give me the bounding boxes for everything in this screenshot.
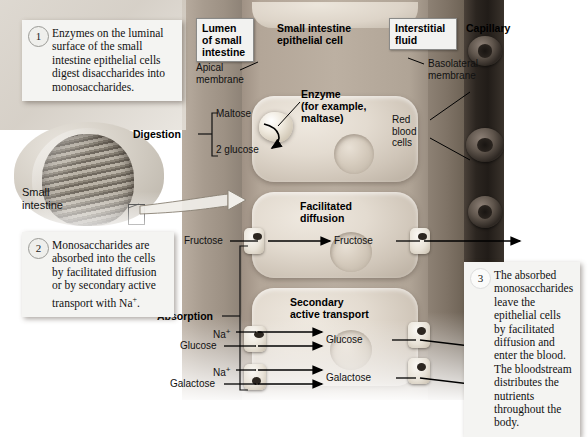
label-epithelial-line2: epithelial cell [277,34,351,46]
label-interstitial-line2: fluid [395,34,451,46]
label-fructose-cell: Fructose [334,235,373,247]
label-organ-line2: intestine [22,199,63,212]
label-na-text: Na [213,329,226,340]
step-2-text-part2: . [137,296,140,308]
apical-sglt-glucose [244,326,266,352]
label-digestion: Digestion [133,128,181,140]
label-facilitated-diffusion: Facilitated diffusion [300,200,352,224]
carrier-notch [417,363,426,371]
label-capillary: Capillary [466,22,510,34]
carrier-notch [254,331,264,338]
label-sodium-galactose: Na+ [213,364,230,379]
carrier-notch [253,233,262,240]
label-enzyme-line3: maltase) [301,112,366,124]
label-glucose-cell: Glucose [326,334,363,346]
step-2-callout: 2 Monosaccharides are absorbed into the … [22,232,174,317]
label-galactose-lumen: Galactose [170,378,215,390]
label-lumen: Lumen of small intestine [196,18,254,62]
step-2-text-part1: Monosaccharides are absorbed into the ce… [52,239,157,308]
label-fd-line1: Facilitated [300,200,352,212]
label-small-intestine: Small intestine [22,186,63,212]
label-galactose-cell: Galactose [326,372,371,384]
label-basolateral-membrane: Basolateral membrane [428,58,478,81]
label-interstitial-fluid: Interstitial fluid [389,18,457,50]
label-sat-line1: Secondary [290,296,369,308]
label-glucose-lumen: Glucose [180,340,217,352]
carrier-notch [417,327,426,335]
label-apical-line2: membrane [196,74,244,86]
label-enzyme-line2: (for example, [301,100,366,112]
step-1-badge: 1 [28,26,49,47]
step-2-badge: 2 [28,238,49,259]
enzyme-molecule [259,112,293,142]
basolateral-fructose-carrier [410,228,430,254]
label-red-blood-cells: Red blood cells [392,114,416,149]
label-rbc-line2: blood [392,126,416,138]
step-3-callout: 3 The absorbed monosaccharides leave the… [464,262,580,437]
label-maltose: Maltose [216,108,251,120]
label-basolateral-line2: membrane [428,70,478,82]
label-apical-line1: Apical [196,62,244,74]
label-enzyme-line1: Enzyme [301,88,366,100]
carrier-notch [418,233,427,240]
step-3-badge: 3 [470,268,491,289]
label-sat-line2: active transport [290,308,369,320]
label-lumen-line2: of small [202,34,248,46]
step-1-callout: 1 Enzymes on the luminal surface of the … [22,20,182,101]
label-enzyme: Enzyme (for example, maltase) [301,88,366,124]
label-na-text: Na [213,367,226,378]
label-sodium-glucose: Na+ [213,326,230,341]
label-organ-line1: Small [22,186,63,199]
label-lumen-line1: Lumen [202,22,248,34]
label-basolateral-line1: Basolateral [428,58,478,70]
label-rbc-line1: Red [392,114,416,126]
label-rbc-line3: cells [392,137,416,149]
label-lumen-line3: intestine [202,46,248,58]
label-fd-line2: diffusion [300,212,352,224]
label-apical-membrane: Apical membrane [196,62,244,85]
basolateral-glucose-carrier [408,322,430,348]
label-epithelial-cell: Small intestine epithelial cell [277,22,351,46]
label-fructose-lumen: Fructose [184,235,223,247]
basolateral-galactose-carrier [408,358,430,384]
carrier-notch [252,377,261,385]
label-na-charge: + [226,327,231,336]
label-interstitial-line1: Interstitial [395,22,451,34]
apical-fructose-carrier [244,228,264,254]
label-2-glucose: 2 glucose [216,144,259,156]
label-secondary-active-transport: Secondary active transport [290,296,369,320]
label-epithelial-line1: Small intestine [277,22,351,34]
label-na-charge: + [226,365,231,374]
